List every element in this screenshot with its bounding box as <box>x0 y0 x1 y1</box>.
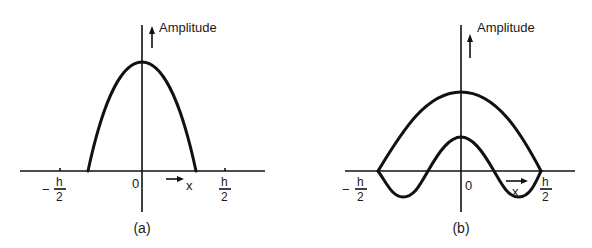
caption-a: (a) <box>133 220 150 236</box>
neg-half-den-a: 2 <box>56 190 63 204</box>
origin-label-a: 0 <box>132 176 139 191</box>
neg-half-den-b: 2 <box>357 190 364 204</box>
x-axis-label-b: x <box>512 184 519 199</box>
mode-amplitude-figure: Amplitude 0 x − h 2 h 2 (a) Amplitude 0 <box>0 0 592 248</box>
y-axis-label-b: Amplitude <box>477 20 535 35</box>
arrow-up-icon <box>149 26 155 48</box>
pos-half-num-a: h <box>221 175 228 189</box>
panel-b: Amplitude 0 x − h 2 h 2 (b) <box>342 20 575 236</box>
arrow-up-icon <box>467 34 473 58</box>
x-axis-label-a: x <box>186 178 193 193</box>
neg-half-num-b: h <box>357 175 364 189</box>
neg-half-num-a: h <box>56 175 63 189</box>
pos-half-den-b: 2 <box>542 190 549 204</box>
origin-label-b: 0 <box>465 178 472 193</box>
caption-b: (b) <box>452 220 469 236</box>
first-mode-curve <box>378 92 541 171</box>
panel-a: Amplitude 0 x − h 2 h 2 (a) <box>20 20 265 236</box>
neg-half-sign-b: − <box>342 182 350 197</box>
arrow-right-icon <box>166 176 184 182</box>
neg-half-sign-a: − <box>42 182 50 197</box>
pos-half-num-b: h <box>542 175 549 189</box>
y-axis-label-a: Amplitude <box>159 20 217 35</box>
pos-half-den-a: 2 <box>221 190 228 204</box>
